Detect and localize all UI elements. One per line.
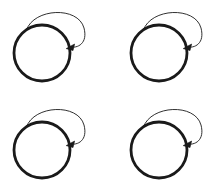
self-loop-diagram: [117, 97, 211, 183]
figure-top-right: [117, 0, 211, 91]
node-circle: [14, 122, 70, 178]
figure-top-left: [0, 0, 105, 91]
figure-bottom-right: [117, 97, 211, 183]
figure-grid: [0, 0, 211, 183]
node-circle: [131, 25, 187, 81]
self-loop-diagram: [0, 97, 105, 183]
node-circle: [131, 122, 187, 178]
self-loop-diagram: [0, 0, 105, 91]
self-loop-diagram: [117, 0, 211, 91]
figure-bottom-left: [0, 97, 105, 183]
node-circle: [14, 25, 70, 81]
